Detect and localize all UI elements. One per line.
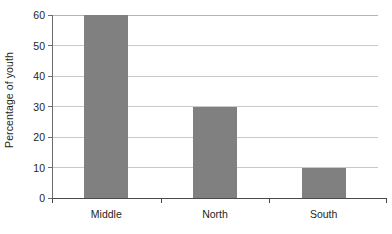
y-tick-mark-20 bbox=[48, 137, 53, 138]
x-axis-label-middle: Middle bbox=[52, 208, 161, 220]
x-tick-mark-end bbox=[386, 198, 387, 203]
x-tick-mark-2 bbox=[269, 198, 270, 203]
y-tick-label-20: 20 bbox=[33, 132, 45, 142]
bar-south bbox=[302, 168, 346, 199]
x-tick-mark-0 bbox=[52, 198, 53, 203]
x-axis-line bbox=[52, 198, 386, 199]
y-tick-label-0: 0 bbox=[39, 193, 45, 203]
x-tick-mark-1 bbox=[161, 198, 162, 203]
bar-chart-figure: Percentage of youth 0102030405060MiddleN… bbox=[0, 0, 392, 234]
y-axis-title-label: Percentage of youth bbox=[3, 52, 15, 148]
y-tick-mark-60 bbox=[48, 15, 53, 16]
y-tick-label-10: 10 bbox=[33, 163, 45, 173]
x-axis-label-south: South bbox=[269, 208, 378, 220]
y-tick-label-30: 30 bbox=[33, 102, 45, 112]
y-tick-mark-10 bbox=[48, 167, 53, 168]
y-tick-label-60: 60 bbox=[33, 10, 45, 20]
bar-middle bbox=[84, 15, 128, 198]
bar-north bbox=[193, 107, 237, 199]
y-tick-mark-50 bbox=[48, 45, 53, 46]
x-axis-label-north: North bbox=[161, 208, 270, 220]
y-tick-mark-40 bbox=[48, 76, 53, 77]
y-axis-title: Percentage of youth bbox=[0, 0, 18, 200]
y-tick-mark-30 bbox=[48, 106, 53, 107]
y-tick-label-50: 50 bbox=[33, 41, 45, 51]
y-tick-label-40: 40 bbox=[33, 71, 45, 81]
plot-area bbox=[52, 15, 378, 198]
